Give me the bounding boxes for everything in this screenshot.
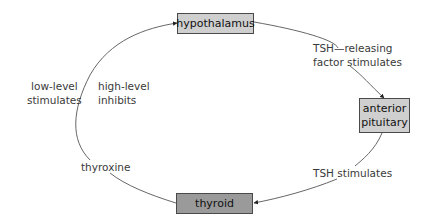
node-hypothalamus-label: hypothalamus xyxy=(176,17,254,31)
edge-label-trh: TSH—releasing factor stimulates xyxy=(313,42,402,69)
node-thyroid: thyroid xyxy=(176,193,253,214)
side-label-low-level-stimulates: low-level stimulates xyxy=(27,80,82,107)
node-anterior-pituitary-label: anterior pituitary xyxy=(361,102,407,130)
node-thyroid-label: thyroid xyxy=(195,197,234,211)
edge-thyroid-to-hypothalamus xyxy=(76,23,177,203)
node-anterior-pituitary: anterior pituitary xyxy=(359,98,410,133)
edge-label-tsh: TSH stimulates xyxy=(313,167,392,181)
side-label-high-level-inhibits: high-level inhibits xyxy=(98,80,150,107)
thyroid-feedback-diagram: hypothalamus anterior pituitary thyroid … xyxy=(0,0,426,224)
node-hypothalamus: hypothalamus xyxy=(177,13,254,34)
edge-label-thyroxine: thyroxine xyxy=(81,161,130,175)
